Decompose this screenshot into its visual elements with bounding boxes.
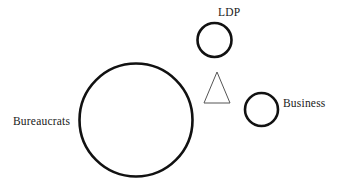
label-business: Business [283,98,326,110]
label-ldp: LDP [218,7,240,19]
label-bureaucrats: Bureaucrats [13,116,70,128]
triangle-unlabeled[interactable] [204,72,230,103]
circle-bureaucrats[interactable] [80,64,193,177]
circle-ldp[interactable] [198,23,232,57]
circle-business[interactable] [245,93,278,126]
diagram-shapes-layer [0,0,341,191]
diagram-canvas: Bureaucrats LDP Business [0,0,341,191]
